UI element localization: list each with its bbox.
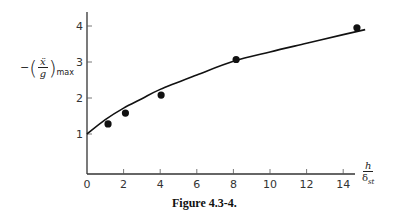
xlabel-subscript: st (368, 178, 374, 186)
ylabel-open-paren: ( (29, 58, 37, 78)
x-tick-label: 0 (84, 178, 91, 191)
y-tick-label: 1 (76, 128, 83, 141)
x-axis-label: h δst (362, 160, 374, 188)
data-point (233, 56, 240, 63)
axes: 123402468101214 (76, 12, 355, 191)
x-tick-label: 10 (263, 178, 277, 191)
y-tick-label: 4 (76, 20, 83, 33)
y-tick-label: 2 (76, 92, 83, 105)
ylabel-denominator: g (40, 68, 46, 79)
ylabel-numerator: ẍ (38, 56, 48, 68)
x-tick-label: 6 (193, 178, 200, 191)
y-axis-label: − ( ẍ g ) max (20, 56, 74, 79)
curve-path (87, 30, 365, 134)
data-point (104, 120, 111, 127)
chart-plot-area: 123402468101214 (0, 0, 397, 220)
ylabel-subscript: max (56, 68, 73, 77)
xlabel-numerator: h (363, 160, 373, 172)
ylabel-minus: − (20, 61, 29, 74)
ylabel-fraction: ẍ g (38, 56, 48, 79)
x-tick-label: 14 (336, 178, 350, 191)
xlabel-denominator: δst (362, 172, 374, 188)
data-point (353, 24, 360, 31)
y-tick-label: 3 (76, 56, 83, 69)
data-point (122, 110, 129, 117)
ylabel-close-paren: ) (49, 58, 57, 78)
x-tick-label: 4 (157, 178, 164, 191)
x-tick-label: 12 (300, 178, 314, 191)
data-point (158, 92, 165, 99)
x-tick-label: 2 (120, 178, 127, 191)
x-tick-label: 8 (230, 178, 237, 191)
theoretical-curve (87, 30, 365, 134)
figure-caption: Figure 4.3-4. (172, 196, 237, 211)
